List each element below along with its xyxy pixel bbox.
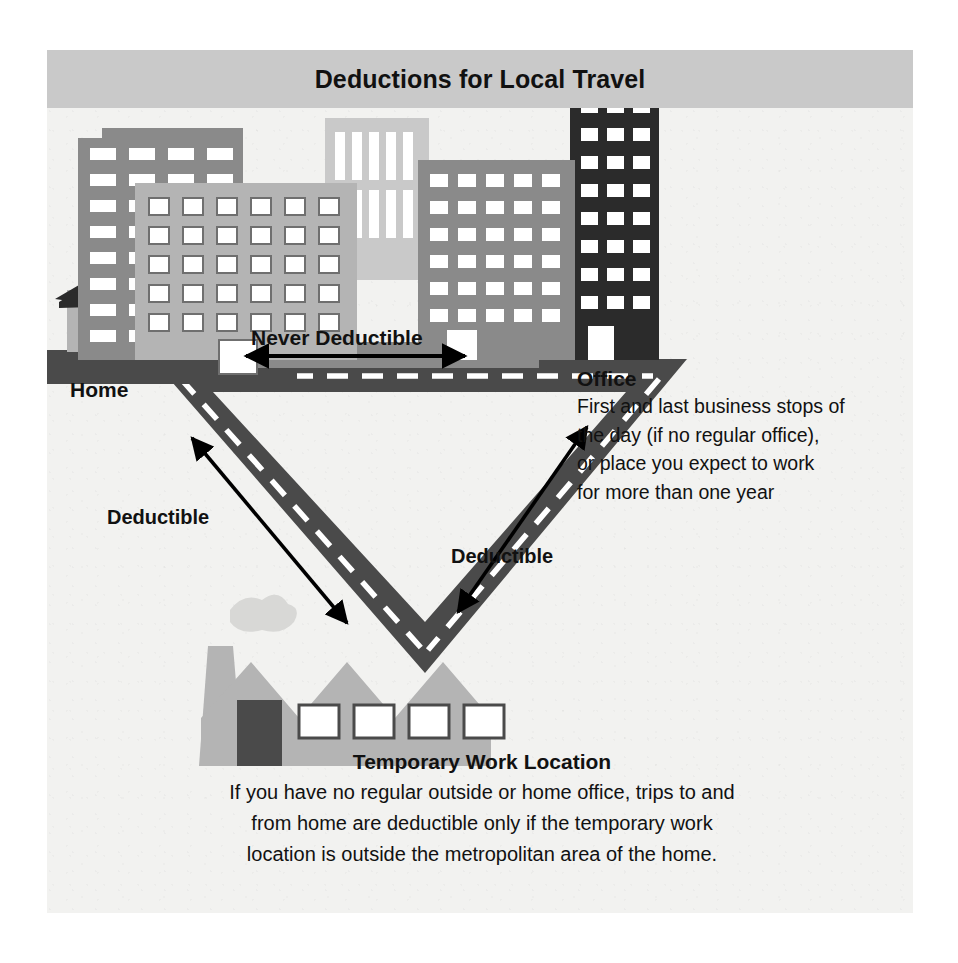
office-line-4: for more than one year (577, 478, 877, 507)
double-arrow-diagonal-right-icon (458, 427, 587, 612)
temporary-heading: Temporary Work Location (67, 747, 897, 777)
diagram-header: Deductions for Local Travel (47, 50, 913, 108)
never-deductible-label: Never Deductible (251, 326, 423, 350)
office-description-block: Office First and last business stops of … (577, 365, 877, 506)
temporary-work-location-block: Temporary Work Location If you have no r… (67, 747, 897, 870)
office-line-3: or place you expect to work (577, 449, 877, 478)
page-title: Deductions for Local Travel (315, 65, 646, 94)
deductible-left-label: Deductible (107, 506, 209, 529)
diagram-panel: Deductions for Local Travel (47, 50, 913, 913)
office-line-1: First and last business stops of (577, 392, 877, 421)
deductible-right-label: Deductible (451, 545, 553, 568)
temporary-line-2: from home are deductible only if the tem… (67, 808, 897, 839)
home-label: Home (70, 378, 128, 402)
temporary-line-3: location is outside the metropolitan are… (67, 839, 897, 870)
temporary-line-1: If you have no regular outside or home o… (67, 777, 897, 808)
office-line-2: the day (if no regular office), (577, 421, 877, 450)
office-heading: Office (577, 365, 877, 392)
diagram-stage: Deductions for Local Travel (0, 0, 958, 963)
